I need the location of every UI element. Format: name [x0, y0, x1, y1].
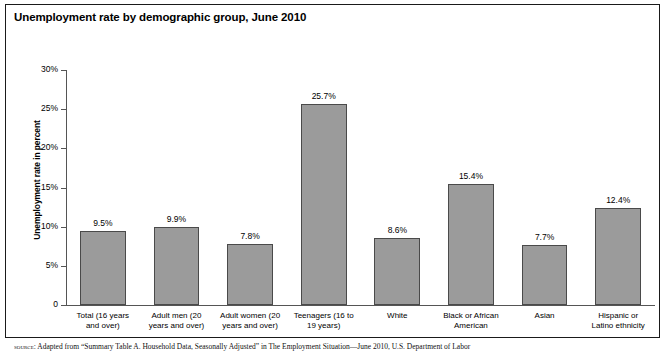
bar-slot: 9.5% [66, 70, 140, 305]
y-tick-label: 5% [46, 260, 58, 270]
x-axis-category-label: White [361, 311, 435, 321]
y-tick-label: 10% [41, 221, 58, 231]
category-label-line: 19 years) [287, 321, 361, 331]
bar-value-label: 25.7% [287, 91, 361, 101]
category-label-line: Latino ethnicity [581, 321, 655, 331]
category-label-line: Adult women (20 [213, 311, 287, 321]
bar-value-label: 7.7% [508, 232, 582, 242]
x-axis-category-label: Adult women (20years and over) [213, 311, 287, 331]
x-axis-category-label: Adult men (20years and over) [140, 311, 214, 331]
bar [448, 184, 494, 305]
bar [374, 238, 420, 305]
category-label-line: Total (16 years [66, 311, 140, 321]
category-label-line: and over) [66, 321, 140, 331]
bar-value-label: 8.6% [361, 225, 435, 235]
category-label-line: Asian [508, 311, 582, 321]
bar-series: 9.5%9.9%7.8%25.7%8.6%15.4%7.7%12.4% [66, 70, 655, 305]
source-text: Adapted from “Summary Table A. Household… [37, 342, 470, 351]
bar-slot: 25.7% [287, 70, 361, 305]
bar-slot: 7.7% [508, 70, 582, 305]
y-tick-label: 0 [53, 299, 58, 309]
plot-area: 05%10%15%20%25%30% 9.5%9.9%7.8%25.7%8.6%… [66, 70, 655, 305]
category-label-line: years and over) [140, 321, 214, 331]
source-label: source: [14, 342, 36, 351]
y-tick-label: 20% [41, 142, 58, 152]
bar-slot: 8.6% [361, 70, 435, 305]
bar-value-label: 15.4% [434, 171, 508, 181]
category-label-line: Adult men (20 [140, 311, 214, 321]
bar-value-label: 9.9% [140, 214, 214, 224]
x-axis-line [66, 305, 655, 306]
y-axis-title: Unemployment rate in percent [32, 100, 42, 260]
x-axis-category-label: Hispanic orLatino ethnicity [581, 311, 655, 331]
y-tick-mark [61, 305, 66, 306]
x-axis-category-label: Asian [508, 311, 582, 321]
category-label-line: Hispanic or [581, 311, 655, 321]
source-note: source: Adapted from “Summary Table A. H… [14, 342, 664, 351]
bar-value-label: 9.5% [66, 218, 140, 228]
bar [301, 104, 347, 305]
x-axis-category-label: Total (16 yearsand over) [66, 311, 140, 331]
unemployment-bar-chart-figure: Unemployment rate by demographic group, … [0, 0, 669, 351]
bar [227, 244, 273, 305]
y-tick-label: 15% [41, 182, 58, 192]
bar-value-label: 12.4% [581, 195, 655, 205]
bar-slot: 7.8% [213, 70, 287, 305]
category-label-line: years and over) [213, 321, 287, 331]
category-label-line: White [361, 311, 435, 321]
category-label-line: Teenagers (16 to [287, 311, 361, 321]
bar-slot: 9.9% [140, 70, 214, 305]
x-axis-category-labels: Total (16 yearsand over)Adult men (20yea… [66, 311, 655, 341]
category-label-line: American [434, 321, 508, 331]
bar [595, 208, 641, 305]
bar-slot: 12.4% [581, 70, 655, 305]
category-label-line: Black or African [434, 311, 508, 321]
x-axis-category-label: Teenagers (16 to19 years) [287, 311, 361, 331]
bar-value-label: 7.8% [213, 231, 287, 241]
bar [80, 231, 126, 305]
bar [522, 245, 568, 305]
page-title: Unemployment rate by demographic group, … [14, 11, 306, 23]
bar-slot: 15.4% [434, 70, 508, 305]
y-tick-label: 30% [41, 64, 58, 74]
bar [154, 227, 200, 305]
x-axis-category-label: Black or AfricanAmerican [434, 311, 508, 331]
y-tick-label: 25% [41, 103, 58, 113]
